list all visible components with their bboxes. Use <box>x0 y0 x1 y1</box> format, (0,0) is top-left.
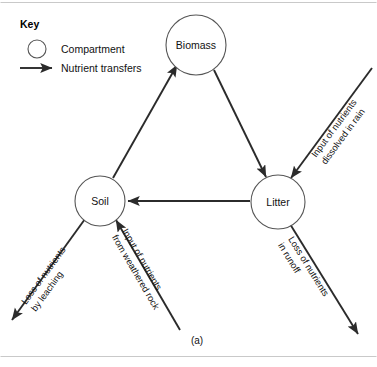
circle-outline-icon <box>28 40 46 58</box>
node-biomass-label: Biomass <box>176 39 216 51</box>
label-rain-input: Input of nutrients dissolved in rain <box>310 97 369 166</box>
transfer-biomass-to-litter <box>214 70 266 177</box>
transfer-runoff-loss <box>290 224 358 334</box>
key-compartment-label: Compartment <box>61 43 125 55</box>
node-litter-label: Litter <box>266 196 290 208</box>
label-leaching-loss: Loss of nutrients by leaching <box>20 245 78 313</box>
node-soil-label: Soil <box>91 195 109 207</box>
nutrient-cycle-diagram: Key Compartment Nutrient transfers Bioma… <box>0 0 377 367</box>
nutrient-cycle-figure: Key Compartment Nutrient transfers Bioma… <box>0 0 377 367</box>
key-transfer-label: Nutrient transfers <box>61 62 142 74</box>
node-litter[interactable]: Litter <box>251 175 305 229</box>
node-biomass[interactable]: Biomass <box>166 15 226 75</box>
node-soil[interactable]: Soil <box>75 176 125 226</box>
figure-caption: (a) <box>191 335 203 346</box>
transfer-soil-to-biomass <box>113 65 177 178</box>
key-title: Key <box>20 18 39 30</box>
